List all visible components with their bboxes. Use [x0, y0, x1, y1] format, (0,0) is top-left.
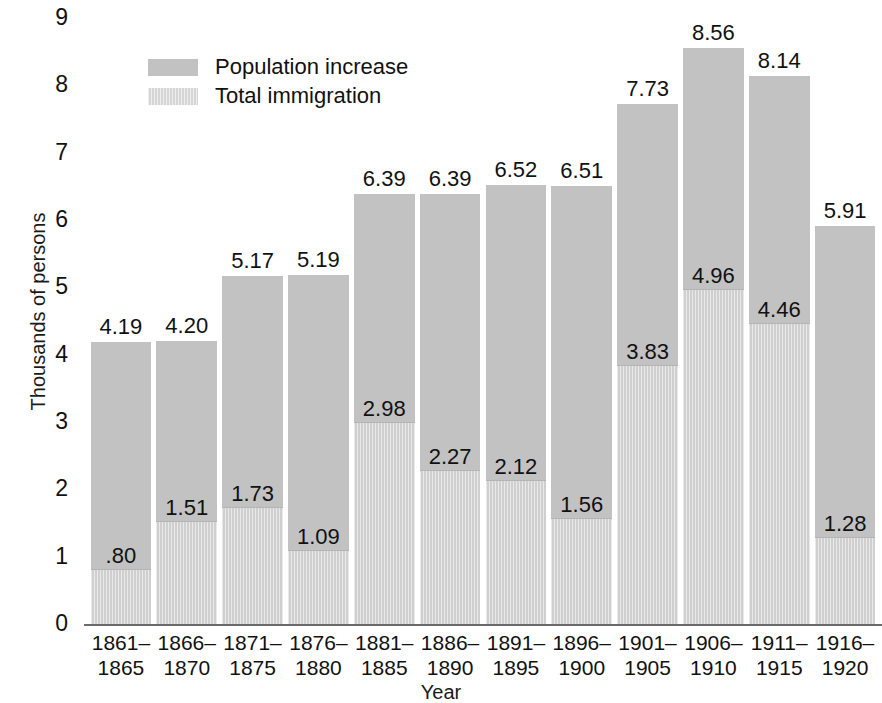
- x-tick-line-2: 1895: [483, 656, 549, 681]
- bar-total-value-label: 6.52: [494, 159, 537, 181]
- bar-segment-total-immigration[interactable]: [815, 537, 876, 624]
- bar-total-value-label: 4.19: [99, 316, 142, 338]
- x-tick-line-1: 1906–: [681, 631, 747, 656]
- x-tick-line-2: 1865: [88, 656, 154, 681]
- bar-stack[interactable]: [288, 275, 349, 624]
- bar-total-value-label: 6.51: [560, 160, 603, 182]
- bar-immigration-value-label: 1.73: [231, 483, 274, 505]
- x-tick-line-1: 1916–: [812, 631, 878, 656]
- x-axis-tick-label: 1916–1920: [812, 631, 878, 681]
- x-axis-tick-label: 1876–1880: [286, 631, 352, 681]
- bar-total-value-label: 6.39: [363, 168, 406, 190]
- bar-segment-total-immigration[interactable]: [91, 569, 152, 624]
- x-axis-tick-label: 1886–1890: [417, 631, 483, 681]
- bar-immigration-value-label: 2.27: [429, 446, 472, 468]
- legend-item-total-immigration: Total immigration: [148, 85, 408, 107]
- bar-total-value-label: 8.14: [758, 50, 801, 72]
- x-axis-tick-label: 1871–1875: [220, 631, 286, 681]
- x-tick-line-1: 1876–: [286, 631, 352, 656]
- bar-immigration-value-label: 4.96: [692, 265, 735, 287]
- bar-immigration-value-label: 2.12: [494, 456, 537, 478]
- x-axis-tick-label: 1906–1910: [681, 631, 747, 681]
- x-axis-tick-label: 1896–1900: [549, 631, 615, 681]
- x-tick-line-2: 1920: [812, 656, 878, 681]
- bar-immigration-value-label: 1.28: [824, 513, 867, 535]
- y-axis-tick-label: 2: [34, 477, 68, 500]
- x-tick-line-1: 1896–: [549, 631, 615, 656]
- bar-segment-total-immigration[interactable]: [749, 323, 810, 624]
- bar-total-value-label: 6.39: [429, 168, 472, 190]
- x-tick-line-2: 1900: [549, 656, 615, 681]
- bar-immigration-value-label: 2.98: [363, 398, 406, 420]
- y-axis-tick-label: 7: [34, 141, 68, 164]
- bar-segment-total-immigration[interactable]: [551, 518, 612, 624]
- x-axis-title: Year: [0, 681, 882, 703]
- bar-stack[interactable]: [420, 194, 481, 624]
- x-tick-line-1: 1911–: [746, 631, 812, 656]
- x-tick-line-2: 1890: [417, 656, 483, 681]
- bar-stack[interactable]: [749, 76, 810, 624]
- bar-segment-total-immigration[interactable]: [354, 422, 415, 624]
- x-tick-line-2: 1880: [286, 656, 352, 681]
- x-tick-line-1: 1866–: [154, 631, 220, 656]
- x-axis-tick-label: 1901–1905: [615, 631, 681, 681]
- bar-stack[interactable]: [156, 341, 217, 624]
- x-tick-line-1: 1871–: [220, 631, 286, 656]
- bar-immigration-value-label: 1.51: [165, 497, 208, 519]
- bar-total-value-label: 5.91: [824, 200, 867, 222]
- bar-total-value-label: 5.17: [231, 250, 274, 272]
- bar-immigration-value-label: 1.56: [560, 494, 603, 516]
- bar-segment-total-immigration[interactable]: [486, 480, 547, 624]
- bar-stack[interactable]: [91, 342, 152, 624]
- x-axis-tick-label: 1881–1885: [351, 631, 417, 681]
- y-axis-tick-label: 6: [34, 208, 68, 231]
- legend-label-total-immigration: Total immigration: [215, 85, 381, 107]
- y-axis-tick-label: 9: [34, 6, 68, 29]
- bar-segment-total-immigration[interactable]: [288, 550, 349, 624]
- y-axis-tick-label: 1: [34, 545, 68, 568]
- bar-total-value-label: 5.19: [297, 249, 340, 271]
- bar-stack[interactable]: [683, 48, 744, 624]
- bar-segment-total-immigration[interactable]: [222, 507, 283, 624]
- bar-immigration-value-label: .80: [106, 545, 137, 567]
- legend-swatch-icon-population-increase: [148, 59, 198, 76]
- x-tick-line-2: 1905: [615, 656, 681, 681]
- legend-label-population-increase: Population increase: [215, 56, 408, 78]
- legend-swatch-icon-total-immigration: [148, 88, 198, 105]
- bar-immigration-value-label: 4.46: [758, 299, 801, 321]
- x-tick-line-1: 1861–: [88, 631, 154, 656]
- bar-segment-total-immigration[interactable]: [156, 521, 217, 624]
- x-axis-tick-label: 1911–1915: [746, 631, 812, 681]
- x-tick-line-1: 1901–: [615, 631, 681, 656]
- bar-total-value-label: 4.20: [165, 315, 208, 337]
- bar-segment-total-immigration[interactable]: [683, 289, 744, 624]
- x-axis-tick-label: 1861–1865: [88, 631, 154, 681]
- x-tick-line-2: 1885: [351, 656, 417, 681]
- x-axis-tick-label: 1866–1870: [154, 631, 220, 681]
- y-axis-tick-label: 3: [34, 410, 68, 433]
- x-axis-tick-label: 1891–1895: [483, 631, 549, 681]
- bar-stack[interactable]: [222, 276, 283, 624]
- x-tick-line-1: 1891–: [483, 631, 549, 656]
- y-axis-tick-label: 0: [34, 612, 68, 635]
- bar-total-value-label: 8.56: [692, 22, 735, 44]
- y-axis-tick-group: 0123456789: [28, 0, 68, 703]
- bar-segment-total-immigration[interactable]: [617, 365, 678, 624]
- x-tick-line-2: 1870: [154, 656, 220, 681]
- x-tick-line-2: 1915: [746, 656, 812, 681]
- y-axis-tick-label: 5: [34, 275, 68, 298]
- x-tick-line-1: 1886–: [417, 631, 483, 656]
- bar-immigration-value-label: 3.83: [626, 341, 669, 363]
- x-tick-line-2: 1875: [220, 656, 286, 681]
- bar-stack[interactable]: [815, 226, 876, 624]
- y-axis-tick-label: 4: [34, 343, 68, 366]
- x-tick-line-2: 1910: [681, 656, 747, 681]
- x-axis-tick-group: 1861–18651866–18701871–18751876–18801881…: [88, 631, 878, 685]
- bar-stack[interactable]: [486, 185, 547, 624]
- bar-chart: Thousands of persons 0123456789 4.19.804…: [0, 0, 882, 703]
- legend-item-population-increase: Population increase: [148, 56, 408, 78]
- y-axis-tick-label: 8: [34, 73, 68, 96]
- bar-stack[interactable]: [551, 186, 612, 624]
- bar-segment-total-immigration[interactable]: [420, 470, 481, 624]
- chart-legend: Population increase Total immigration: [148, 56, 408, 114]
